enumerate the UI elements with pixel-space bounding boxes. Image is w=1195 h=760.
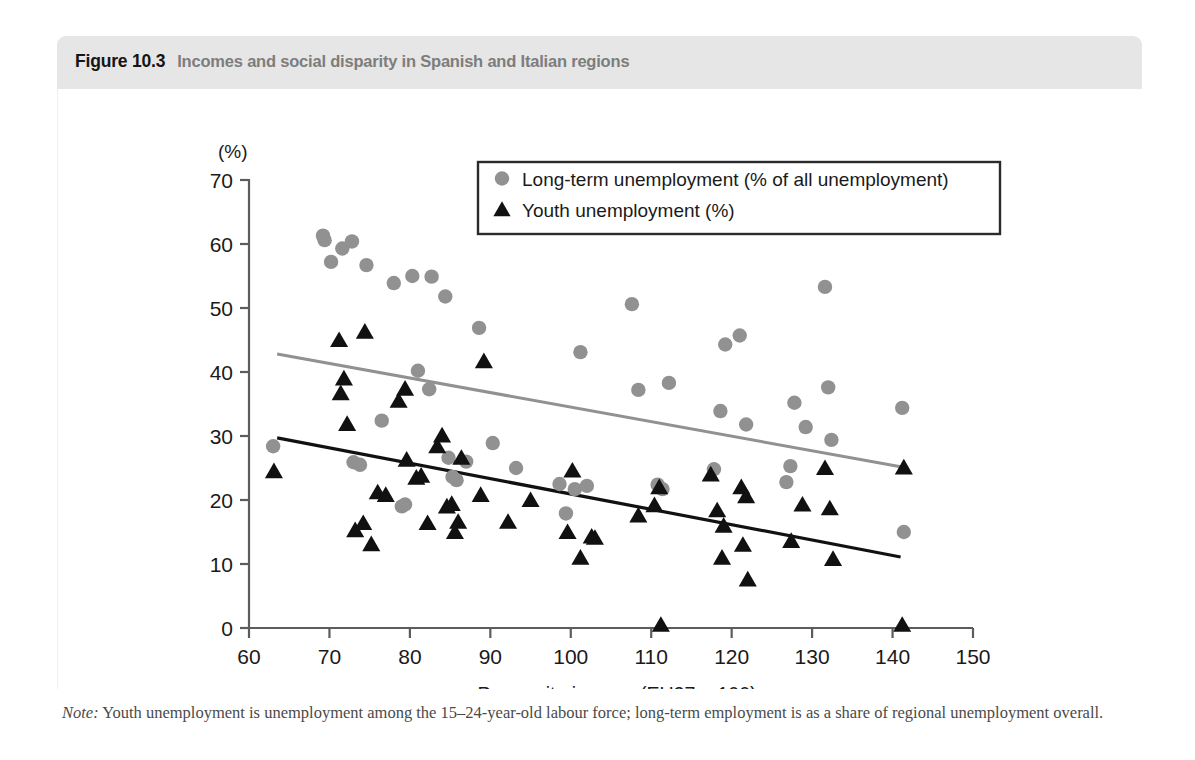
figure-header-text: Figure 10.3Incomes and social disparity … [75, 51, 629, 72]
data-point-circle [895, 401, 909, 415]
data-point-triangle [824, 550, 842, 566]
data-point-circle [411, 364, 425, 378]
data-point-triangle [816, 459, 834, 475]
data-point-triangle [472, 486, 490, 502]
data-point-triangle [708, 502, 726, 518]
data-point-triangle [396, 380, 414, 396]
figure-note: Note: Youth unemployment is unemployment… [62, 700, 1152, 726]
data-point-circle [424, 269, 438, 283]
data-point-circle [739, 417, 753, 431]
data-point-circle [821, 380, 835, 394]
x-tick-label: 90 [479, 645, 502, 668]
data-point-circle [713, 404, 727, 418]
data-point-triangle [398, 451, 416, 467]
y-tick-label: 60 [210, 233, 233, 256]
x-tick-label: 150 [955, 645, 990, 668]
data-point-circle [345, 234, 359, 248]
data-point-circle [552, 477, 566, 491]
data-point-circle [573, 345, 587, 359]
legend-label: Youth unemployment (%) [522, 200, 735, 221]
figure-container: Figure 10.3Incomes and social disparity … [0, 0, 1195, 760]
data-point-triangle [652, 616, 670, 632]
note-text: Youth unemployment is unemployment among… [99, 703, 1104, 722]
y-tick-label: 0 [221, 617, 233, 640]
data-point-circle [718, 337, 732, 351]
data-point-triangle [559, 523, 577, 539]
scatter-chart: 0102030405060706070809010011012013014015… [58, 89, 1143, 689]
data-point-triangle [793, 496, 811, 512]
data-point-triangle [265, 463, 283, 479]
y-tick-label: 70 [210, 169, 233, 192]
data-point-triangle [645, 497, 663, 513]
x-tick-label: 70 [318, 645, 341, 668]
x-tick-label: 120 [714, 645, 749, 668]
data-point-triangle [335, 370, 353, 386]
data-point-circle [625, 297, 639, 311]
data-point-triangle [571, 549, 589, 565]
y-axis-unit-label: (%) [218, 141, 248, 162]
data-point-triangle [713, 549, 731, 565]
y-tick-label: 50 [210, 297, 233, 320]
data-point-circle [266, 439, 280, 453]
data-point-circle [438, 289, 452, 303]
y-tick-label: 30 [210, 425, 233, 448]
legend-marker-circle [495, 171, 509, 185]
y-tick-label: 10 [210, 553, 233, 576]
data-point-circle [568, 482, 582, 496]
data-point-circle [324, 255, 338, 269]
data-point-circle [405, 269, 419, 283]
data-point-circle [317, 233, 331, 247]
data-point-circle [472, 321, 486, 335]
data-point-circle [580, 479, 594, 493]
data-point-triangle [419, 514, 437, 530]
x-tick-label: 130 [795, 645, 830, 668]
data-point-triangle [330, 331, 348, 347]
trendline [277, 354, 900, 467]
data-point-circle [897, 525, 911, 539]
x-tick-label: 60 [237, 645, 260, 668]
x-tick-label: 80 [398, 645, 421, 668]
data-point-triangle [739, 571, 757, 587]
x-tick-label: 140 [875, 645, 910, 668]
data-point-circle [818, 280, 832, 294]
figure-number: Figure 10.3 [75, 51, 165, 71]
data-point-circle [787, 396, 801, 410]
figure-header-band: Figure 10.3Incomes and social disparity … [57, 36, 1142, 89]
data-point-circle [486, 436, 500, 450]
data-point-triangle [332, 385, 350, 401]
y-tick-label: 20 [210, 489, 233, 512]
data-point-circle [353, 458, 367, 472]
data-point-circle [798, 420, 812, 434]
data-point-circle [779, 475, 793, 489]
data-point-circle [662, 376, 676, 390]
data-point-circle [359, 258, 373, 272]
data-point-circle [398, 497, 412, 511]
data-point-triangle [433, 427, 451, 443]
data-point-triangle [499, 513, 517, 529]
data-point-circle [387, 276, 401, 290]
series-long-term-unemployment [266, 228, 911, 539]
data-point-circle [422, 382, 436, 396]
data-point-triangle [893, 616, 911, 632]
y-tick-label: 40 [210, 361, 233, 384]
note-label: Note: [62, 703, 99, 722]
data-point-triangle [734, 536, 752, 552]
data-point-circle [733, 328, 747, 342]
data-point-triangle [563, 462, 581, 478]
data-point-triangle [821, 500, 839, 516]
figure-body: 0102030405060706070809010011012013014015… [57, 89, 1142, 689]
data-point-triangle [475, 353, 493, 369]
data-point-circle [824, 433, 838, 447]
data-point-circle [559, 506, 573, 520]
data-point-triangle [522, 491, 540, 507]
legend-label: Long-term unemployment (% of all unemplo… [522, 169, 949, 190]
data-point-circle [783, 459, 797, 473]
figure-title: Incomes and social disparity in Spanish … [177, 52, 629, 70]
data-point-circle [631, 383, 645, 397]
data-point-triangle [449, 513, 467, 529]
data-point-circle [509, 461, 523, 475]
x-tick-label: 110 [634, 645, 667, 668]
data-point-circle [375, 413, 389, 427]
data-point-triangle [354, 514, 372, 530]
x-tick-label: 100 [553, 645, 588, 668]
